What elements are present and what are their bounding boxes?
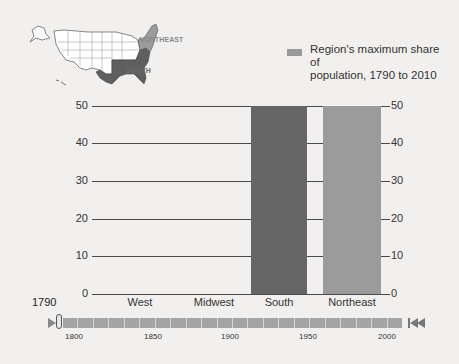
y-tick-dash-50 [384,106,390,107]
y-tick-right-30: 30 [391,174,403,186]
timeline-segment [248,318,263,328]
timeline-segment [310,318,325,328]
y-tick-left-10: 10 [68,249,88,261]
bar-south [251,106,307,294]
timeline-tick-1850: 1850 [138,332,168,341]
timeline-slider-handle[interactable] [56,314,62,329]
timeline-segment [187,318,202,328]
timeline-segment [341,318,356,328]
play-button[interactable] [48,318,56,328]
bar-northeast [323,106,381,294]
timeline-segment [63,318,78,328]
y-tick-left-0: 0 [68,287,88,299]
timeline-segment [357,318,372,328]
timeline-segment [171,318,186,328]
y-tick-right-10: 10 [391,249,403,261]
timeline-segment [125,318,140,328]
y-tick-right-20: 20 [391,212,403,224]
y-tick-right-40: 40 [391,136,403,148]
timeline-segment [264,318,279,328]
timeline-tick-2000: 2000 [372,332,402,341]
timeline-tick-1950: 1950 [293,332,323,341]
y-tick-dash-10 [384,256,390,257]
timeline-segment [279,318,294,328]
timeline-segment [326,318,341,328]
y-tick-left-40: 40 [68,136,88,148]
current-year-label: 1790 [32,296,56,308]
timeline-segment [388,318,402,328]
y-tick-right-0: 0 [391,287,397,299]
y-tick-left-20: 20 [68,212,88,224]
y-tick-dash-0 [384,294,390,295]
category-label-midwest: Midwest [179,296,249,308]
timeline-segment [295,318,310,328]
timeline-tick-1800: 1800 [59,332,89,341]
rewind-to-start-icon[interactable] [408,318,428,328]
y-tick-dash-20 [384,219,390,220]
timeline-segment [140,318,155,328]
timeline-segment [156,318,171,328]
category-label-northeast: Northeast [317,296,387,308]
timeline-segment [109,318,124,328]
timeline-segment [202,318,217,328]
timeline-slider-track[interactable] [63,318,402,328]
timeline-segment [94,318,109,328]
bar-chart: 50 40 30 20 10 0 50 40 30 20 10 0 West M… [0,0,459,310]
gridline-0 [92,294,384,295]
y-tick-left-50: 50 [68,99,88,111]
timeline-segment [233,318,248,328]
category-label-south: South [244,296,314,308]
timeline-segment [78,318,93,328]
y-tick-dash-40 [384,143,390,144]
timeline-tick-1900: 1900 [215,332,245,341]
timeline-segment [218,318,233,328]
y-tick-dash-30 [384,181,390,182]
timeline-segment [372,318,387,328]
y-tick-left-30: 30 [68,174,88,186]
y-tick-right-50: 50 [391,99,403,111]
category-label-west: West [105,296,175,308]
